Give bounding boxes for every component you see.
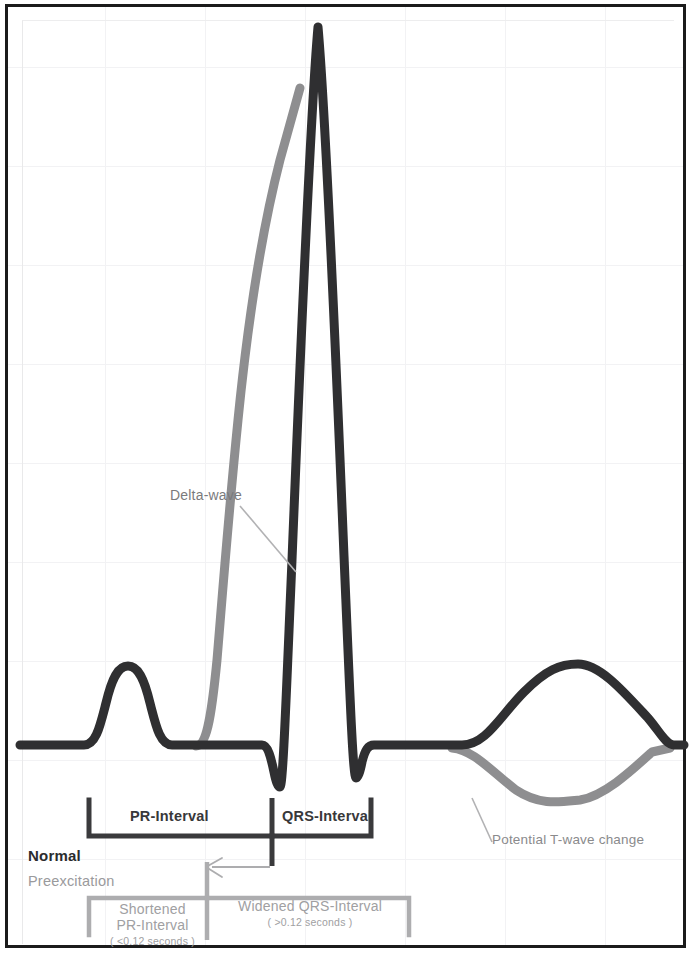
potential-t-wave-change-label: Potential T-wave change xyxy=(492,832,644,848)
preexcitation-row-label: Preexcitation xyxy=(28,873,114,890)
shortened-pr-line1: Shortened xyxy=(119,901,185,917)
pr-interval-label: PR-Interval xyxy=(130,808,209,825)
normal-row-label: Normal xyxy=(28,847,81,864)
widened-qrs-interval-label: Widened QRS-Interval ( >0.12 seconds ) xyxy=(212,898,408,928)
widened-qrs-note: ( >0.12 seconds ) xyxy=(212,916,408,928)
shortened-pr-note: ( <0.12 seconds ) xyxy=(100,935,205,947)
widened-qrs-line1: Widened QRS-Interval xyxy=(238,898,382,914)
inverted-t-wave-trace xyxy=(452,748,670,802)
delta-wave-leader-line xyxy=(240,506,296,572)
delta-wave-label: Delta-wave xyxy=(170,487,242,503)
qrs-interval-label: QRS-Interval xyxy=(282,808,372,825)
shortened-pr-line2: PR-Interval xyxy=(116,917,188,933)
ecg-figure-page: Delta-wave Potential T-wave change Norma… xyxy=(0,0,696,955)
t-wave-change-leader-line xyxy=(472,798,492,842)
normal-ecg-trace xyxy=(20,27,684,787)
shortened-pr-interval-label: Shortened PR-Interval ( <0.12 seconds ) xyxy=(100,901,205,947)
